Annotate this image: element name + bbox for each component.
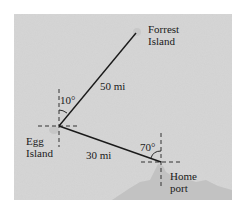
egg-island-label-line2: Island	[26, 147, 53, 159]
distance-50-label: 50 mi	[100, 80, 125, 92]
forrest-island-label-line1: Forrest	[148, 23, 179, 35]
home-port-label-line2: port	[170, 182, 188, 194]
forrest-island-label-line2: Island	[148, 35, 175, 47]
home-port-label-line1: Home	[170, 170, 197, 182]
egg-island-label-line1: Egg	[26, 135, 44, 147]
diagram-frame: Forrest Island 50 mi 10° Egg Island 30 m…	[0, 0, 244, 210]
angle-70-label: 70°	[140, 141, 155, 153]
egg-island-shape	[49, 126, 59, 134]
distance-30-label: 30 mi	[86, 149, 111, 161]
angle-10-label: 10°	[60, 94, 75, 106]
